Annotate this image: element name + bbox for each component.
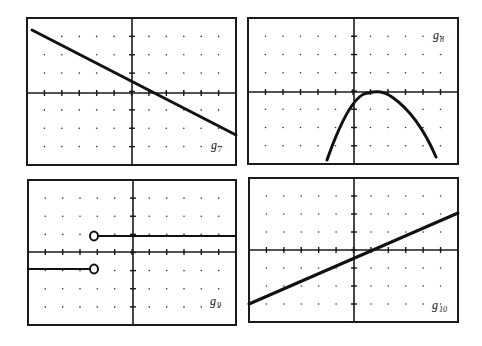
- function-label: g10: [432, 298, 447, 314]
- line-g7: [32, 30, 236, 135]
- graph-grid-figure: g7 g8 g9 g10: [0, 0, 482, 346]
- panel-g8: g8: [247, 17, 459, 165]
- open-circle-icon: [90, 232, 98, 241]
- panel-g7: g7: [26, 17, 237, 166]
- function-label: g9: [210, 294, 221, 310]
- function-label: g8: [433, 28, 444, 44]
- function-label: g7: [211, 138, 223, 154]
- panel-g10: g10: [248, 177, 459, 323]
- open-circle-icon: [90, 265, 98, 274]
- panel-g9: g9: [27, 179, 237, 326]
- parabola-g8: [327, 92, 436, 160]
- axis-ticks: [248, 18, 458, 164]
